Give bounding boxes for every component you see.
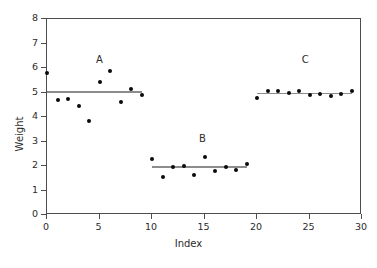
data-point <box>66 97 70 101</box>
x-tick-mark <box>204 214 205 219</box>
data-point <box>318 92 322 96</box>
group-mean-line <box>47 91 142 93</box>
group-label-c: C <box>302 55 309 65</box>
x-tick-label: 30 <box>346 222 376 232</box>
data-point <box>119 100 123 104</box>
x-tick-label: 5 <box>84 222 114 232</box>
data-point <box>171 165 175 169</box>
y-tick-mark <box>41 92 46 93</box>
data-point <box>56 98 60 102</box>
data-point <box>245 162 249 166</box>
y-tick-mark <box>41 141 46 142</box>
y-tick-mark <box>41 190 46 191</box>
data-point <box>161 175 165 179</box>
group-mean-line <box>152 166 247 168</box>
x-tick-label: 10 <box>136 222 166 232</box>
y-tick-label: 0 <box>12 209 38 219</box>
y-tick-label: 6 <box>12 62 38 72</box>
x-tick-mark <box>256 214 257 219</box>
data-point <box>308 93 312 97</box>
data-point <box>287 91 291 95</box>
scatter-plot-figure: ABC 012345678 051015202530 Weight Index <box>0 0 377 268</box>
x-tick-label: 25 <box>294 222 324 232</box>
x-tick-label: 0 <box>31 222 61 232</box>
data-point <box>108 69 112 73</box>
data-point <box>224 165 228 169</box>
data-point <box>234 168 238 172</box>
group-label-a: A <box>96 55 103 65</box>
data-point <box>255 96 259 100</box>
x-tick-mark <box>151 214 152 219</box>
data-point <box>213 169 217 173</box>
x-axis-label: Index <box>0 238 377 249</box>
data-point <box>203 155 207 159</box>
y-tick-mark <box>41 67 46 68</box>
y-tick-label: 2 <box>12 160 38 170</box>
y-tick-mark <box>41 18 46 19</box>
data-point <box>266 89 270 93</box>
data-point <box>350 89 354 93</box>
data-point <box>87 119 91 123</box>
y-tick-label: 8 <box>12 13 38 23</box>
plot-area: ABC <box>46 18 361 214</box>
x-tick-mark <box>99 214 100 219</box>
data-point <box>77 104 81 108</box>
data-point <box>140 93 144 97</box>
group-label-b: B <box>199 134 206 144</box>
data-point <box>192 173 196 177</box>
x-tick-label: 20 <box>241 222 271 232</box>
y-tick-mark <box>41 43 46 44</box>
data-point <box>182 164 186 168</box>
group-mean-line <box>257 93 352 95</box>
x-tick-mark <box>361 214 362 219</box>
data-point <box>339 92 343 96</box>
y-tick-mark <box>41 116 46 117</box>
data-point <box>150 157 154 161</box>
y-tick-mark <box>41 165 46 166</box>
data-point <box>297 89 301 93</box>
data-point <box>98 80 102 84</box>
y-axis-label: Weight <box>14 117 25 152</box>
y-tick-label: 7 <box>12 38 38 48</box>
data-point <box>129 87 133 91</box>
data-point <box>45 71 49 75</box>
y-tick-label: 5 <box>12 87 38 97</box>
y-tick-label: 1 <box>12 185 38 195</box>
data-point <box>329 94 333 98</box>
x-tick-mark <box>309 214 310 219</box>
data-point <box>276 89 280 93</box>
x-tick-mark <box>46 214 47 219</box>
x-tick-label: 15 <box>189 222 219 232</box>
